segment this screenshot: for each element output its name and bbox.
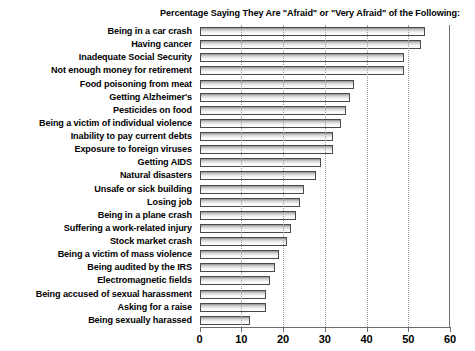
x-tick-label: 0 <box>180 333 220 345</box>
category-label: Being a victim of mass violence <box>0 248 196 261</box>
category-label: Being audited by the IRS <box>0 261 196 274</box>
gridline <box>283 25 284 327</box>
bar <box>200 145 334 154</box>
bar <box>200 276 271 285</box>
bar <box>200 303 267 312</box>
bar <box>200 53 405 62</box>
x-tick-label: 60 <box>430 333 470 345</box>
axis-right-frame <box>449 25 450 327</box>
bar <box>200 132 334 141</box>
gridline <box>241 25 242 327</box>
bar <box>200 224 292 233</box>
bar <box>200 66 405 75</box>
category-label: Being sexually harassed <box>0 314 196 327</box>
bar <box>200 158 321 167</box>
category-label: Being in a car crash <box>0 25 196 38</box>
category-label: Inability to pay current debts <box>0 130 196 143</box>
category-label: Unsafe or sick building <box>0 183 196 196</box>
bar <box>200 27 425 36</box>
x-tick-mark <box>241 328 242 332</box>
x-tick-mark <box>367 328 368 332</box>
bar <box>200 211 296 220</box>
x-tick-mark <box>200 328 201 332</box>
x-tick-label: 50 <box>388 333 428 345</box>
x-tick-mark <box>283 328 284 332</box>
category-label: Asking for a raise <box>0 301 196 314</box>
category-label: Natural disasters <box>0 169 196 182</box>
plot-area <box>200 25 451 327</box>
category-label: Getting Alzheimer's <box>0 91 196 104</box>
x-tick-label: 10 <box>221 333 261 345</box>
x-axis-ticks: 0102030405060 <box>0 328 475 350</box>
bar <box>200 185 304 194</box>
category-label: Stock market crash <box>0 235 196 248</box>
bar <box>200 119 342 128</box>
x-tick-label: 30 <box>305 333 345 345</box>
bar <box>200 237 288 246</box>
category-label: Not enough money for retirement <box>0 64 196 77</box>
category-label: Being a victim of individual violence <box>0 117 196 130</box>
bar <box>200 93 350 102</box>
bar-chart: Percentage Saying They Are "Afraid" or "… <box>0 0 475 351</box>
bar <box>200 171 317 180</box>
category-label: Being accused of sexual harassment <box>0 288 196 301</box>
category-label: Being in a plane crash <box>0 209 196 222</box>
category-label: Pesticides on food <box>0 104 196 117</box>
category-label: Inadequate Social Security <box>0 51 196 64</box>
bar <box>200 250 279 259</box>
x-tick-label: 40 <box>347 333 387 345</box>
bar <box>200 198 300 207</box>
category-axis-labels: Being in a car crashHaving cancerInadequ… <box>0 25 196 327</box>
gridline <box>408 25 409 327</box>
bar <box>200 263 275 272</box>
category-label: Having cancer <box>0 38 196 51</box>
bar <box>200 40 421 49</box>
bar <box>200 290 267 299</box>
x-tick-mark <box>325 328 326 332</box>
bar <box>200 106 346 115</box>
gridline <box>367 25 368 327</box>
category-label: Suffering a work-related injury <box>0 222 196 235</box>
category-label: Exposure to foreign viruses <box>0 143 196 156</box>
gridline <box>325 25 326 327</box>
chart-title: Percentage Saying They Are "Afraid" or "… <box>160 8 475 18</box>
category-label: Losing job <box>0 196 196 209</box>
x-tick-label: 20 <box>263 333 303 345</box>
category-label: Food poisoning from meat <box>0 78 196 91</box>
bar <box>200 80 354 89</box>
category-label: Electromagnetic fields <box>0 274 196 287</box>
x-tick-mark <box>408 328 409 332</box>
x-tick-mark <box>450 328 451 332</box>
category-label: Getting AIDS <box>0 156 196 169</box>
